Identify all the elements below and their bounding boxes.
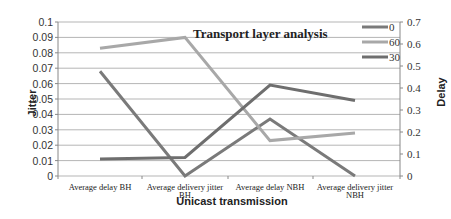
y-axis-title-right: Delay (435, 76, 447, 106)
right-tick-label: 0.6 (407, 38, 421, 50)
category-label: Average delay NBH (236, 182, 305, 192)
left-tick-label: 0.08 (33, 47, 54, 59)
category-label: NBH (346, 190, 364, 200)
category-label: Average delay BH (69, 182, 132, 192)
y-axis-title-left: Jitter (26, 89, 38, 117)
right-tick-label: 0.3 (407, 104, 421, 116)
left-tick-label: 0.07 (33, 62, 54, 74)
right-tick-label: 0.1 (407, 148, 421, 160)
right-tick-label: 0.4 (407, 82, 421, 94)
x-axis-title: Unicast transmission (176, 195, 288, 207)
right-tick-label: 0 (407, 170, 413, 182)
left-tick-label: 0 (47, 170, 53, 182)
legend-label: 30 (389, 51, 401, 63)
right-tick-label: 0.2 (407, 126, 421, 138)
left-tick-label: 0.02 (33, 139, 54, 151)
legend-label: 60 (389, 36, 401, 48)
legend: 06030 (362, 21, 401, 63)
right-axis-ticks: 00.10.20.30.40.50.60.7 (400, 16, 421, 182)
left-tick-label: 0.06 (33, 78, 54, 90)
left-tick-label: 0.01 (33, 155, 54, 167)
right-tick-label: 0.7 (407, 16, 421, 28)
left-tick-label: 0.03 (33, 124, 54, 136)
line-chart: 00.010.020.030.040.050.060.070.080.090.1… (0, 0, 451, 219)
left-tick-label: 0.1 (38, 16, 53, 28)
right-tick-label: 0.5 (407, 60, 421, 72)
legend-label: 0 (389, 21, 395, 33)
chart-title: Transport layer analysis (193, 26, 328, 41)
left-tick-label: 0.09 (33, 31, 54, 43)
series-lines (100, 37, 355, 176)
